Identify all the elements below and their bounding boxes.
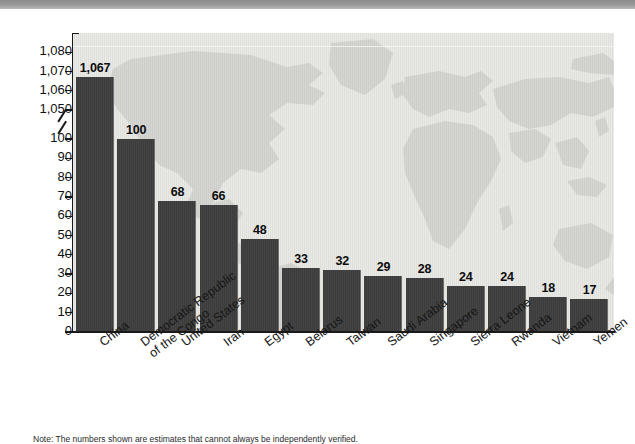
y-axis-tick-label: 20 [10,284,72,299]
y-axis-tick-label: 70 [10,188,72,203]
y-axis-tick-label: 30 [10,265,72,280]
bar[interactable] [117,139,155,332]
bar-value-label: 1,067 [67,61,123,75]
y-axis-top-cap [72,33,79,34]
y-axis-line [72,33,73,332]
plot-hairline [73,46,614,47]
bar-value-label: 17 [561,283,617,297]
bar-value-label: 48 [232,223,288,237]
x-axis-category-labels: ChinaDemocratic Republicof the CongoUnit… [0,331,635,411]
y-axis-tick-label: 1,080 [10,43,72,58]
page-top-edge [0,0,635,9]
y-axis-tick-label: 80 [10,169,72,184]
bar-value-label: 100 [108,123,164,137]
bar-chart-figure: 01020304050607080901001,0501,0601,0701,0… [0,9,635,438]
y-axis-tick-label: 10 [10,304,72,319]
y-axis-tick-label: 1,070 [10,63,72,78]
y-axis-tick-label: 60 [10,207,72,222]
bar-value-label: 66 [191,189,247,203]
bar[interactable] [76,77,114,332]
y-axis-tick-label: 50 [10,227,72,242]
y-axis-break-icon [58,113,80,139]
y-axis-tick-label: 90 [10,149,72,164]
chart-footnote: Note: The numbers shown are estimates th… [33,434,593,444]
y-axis-tick-label: 1,060 [10,82,72,97]
y-axis-tick-label: 40 [10,246,72,261]
